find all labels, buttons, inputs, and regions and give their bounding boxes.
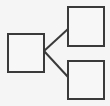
edge-root-to-top (44, 29, 68, 51)
child-node-bottom-box (67, 60, 105, 100)
root-node-box (7, 33, 45, 73)
tree-diagram (0, 0, 110, 106)
child-node-top-box (67, 6, 105, 47)
edge-root-to-bottom (44, 51, 68, 77)
